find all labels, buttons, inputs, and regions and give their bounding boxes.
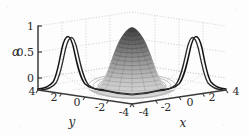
x-axis-title: x	[180, 116, 187, 130]
x-tick-label-neg4: -4	[139, 106, 150, 119]
z-axis-title: α	[12, 45, 20, 59]
y-tick-label-neg4: -4	[119, 106, 130, 119]
y-axis-title: y	[68, 115, 76, 129]
x-tick-label-neg2: -2	[161, 101, 172, 114]
y-tick-label-neg2: -2	[95, 101, 106, 114]
y-tick-label-0: 0	[74, 96, 81, 109]
y-tick-label-4: 4	[29, 85, 36, 98]
z-tick-label-1: 1	[27, 20, 34, 33]
x-tick-label-4: 4	[233, 85, 240, 98]
profile-curve-left-wall	[38, 37, 103, 90]
figure-container: 1 0.5 0 α 4 2 0 -2 -4 y -4 -2 0 2 4 x	[0, 0, 249, 137]
y-tick-label-2: 2	[51, 91, 58, 104]
z-tick-label-0: 0	[27, 72, 34, 85]
x-tick-label-0: 0	[187, 96, 194, 109]
gaussian-surface-plot: 1 0.5 0 α 4 2 0 -2 -4 y -4 -2 0 2 4 x	[0, 0, 249, 137]
gaussian-surface-mesh	[87, 27, 177, 98]
x-tick-label-2: 2	[209, 91, 216, 104]
